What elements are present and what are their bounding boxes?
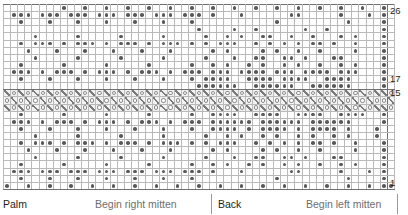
stitch-cell-decrease[interactable] (96, 97, 103, 104)
stitch-cell-empty[interactable] (18, 54, 25, 61)
stitch-cell-filled[interactable] (380, 76, 387, 83)
stitch-cell-decrease[interactable] (267, 97, 274, 104)
stitch-cell-empty[interactable] (238, 83, 245, 90)
stitch-cell-yarnover[interactable] (131, 97, 138, 104)
stitch-cell-decrease[interactable] (4, 90, 11, 97)
stitch-cell-empty[interactable] (302, 161, 309, 168)
stitch-cell-empty[interactable] (46, 68, 53, 75)
stitch-cell-empty[interactable] (366, 111, 373, 118)
stitch-cell-empty[interactable] (124, 76, 131, 83)
stitch-cell-empty[interactable] (302, 83, 309, 90)
stitch-cell-empty[interactable] (359, 61, 366, 68)
stitch-cell-empty[interactable] (117, 147, 124, 154)
stitch-cell-empty[interactable] (96, 111, 103, 118)
stitch-cell-empty[interactable] (323, 54, 330, 61)
stitch-cell-filled[interactable] (174, 182, 181, 189)
stitch-cell-empty[interactable] (89, 175, 96, 182)
stitch-cell-empty[interactable] (224, 26, 231, 33)
stitch-cell-empty[interactable] (167, 61, 174, 68)
stitch-cell-empty[interactable] (267, 26, 274, 33)
stitch-cell-empty[interactable] (359, 68, 366, 75)
stitch-cell-empty[interactable] (124, 47, 131, 54)
stitch-cell-empty[interactable] (373, 83, 380, 90)
stitch-cell-yarnover[interactable] (110, 104, 117, 111)
stitch-cell-empty[interactable] (259, 140, 266, 147)
stitch-cell-empty[interactable] (160, 161, 167, 168)
stitch-cell-empty[interactable] (345, 54, 352, 61)
stitch-cell-filled[interactable] (139, 118, 146, 125)
stitch-cell-yarnover[interactable] (82, 104, 89, 111)
stitch-cell-empty[interactable] (181, 40, 188, 47)
stitch-cell-yarnover[interactable] (259, 97, 266, 104)
stitch-cell-yarnover[interactable] (4, 97, 11, 104)
stitch-cell-empty[interactable] (117, 19, 124, 26)
stitch-cell-filled[interactable] (103, 19, 110, 26)
stitch-cell-filled[interactable] (153, 68, 160, 75)
stitch-cell-empty[interactable] (89, 68, 96, 75)
stitch-cell-filled[interactable] (309, 40, 316, 47)
stitch-cell-yarnover[interactable] (281, 104, 288, 111)
stitch-cell-empty[interactable] (195, 111, 202, 118)
stitch-cell-empty[interactable] (302, 61, 309, 68)
stitch-cell-empty[interactable] (160, 83, 167, 90)
stitch-cell-yarnover[interactable] (210, 90, 217, 97)
stitch-cell-empty[interactable] (4, 125, 11, 132)
stitch-cell-filled[interactable] (231, 111, 238, 118)
stitch-cell-empty[interactable] (67, 76, 74, 83)
stitch-cell-yarnover[interactable] (167, 104, 174, 111)
stitch-cell-filled[interactable] (18, 40, 25, 47)
stitch-cell-empty[interactable] (352, 19, 359, 26)
stitch-cell-empty[interactable] (153, 47, 160, 54)
stitch-cell-filled[interactable] (203, 33, 210, 40)
stitch-cell-filled[interactable] (103, 5, 110, 12)
stitch-cell-empty[interactable] (373, 19, 380, 26)
stitch-cell-empty[interactable] (224, 182, 231, 189)
stitch-cell-filled[interactable] (224, 76, 231, 83)
stitch-cell-decrease[interactable] (316, 104, 323, 111)
stitch-cell-empty[interactable] (25, 61, 32, 68)
stitch-cell-filled[interactable] (39, 12, 46, 19)
stitch-cell-empty[interactable] (224, 54, 231, 61)
stitch-cell-yarnover[interactable] (103, 97, 110, 104)
stitch-cell-empty[interactable] (338, 125, 345, 132)
stitch-cell-filled[interactable] (366, 12, 373, 19)
stitch-cell-filled[interactable] (146, 5, 153, 12)
stitch-cell-empty[interactable] (39, 154, 46, 161)
stitch-cell-empty[interactable] (252, 168, 259, 175)
stitch-cell-empty[interactable] (146, 26, 153, 33)
stitch-cell-empty[interactable] (167, 76, 174, 83)
stitch-cell-empty[interactable] (359, 154, 366, 161)
stitch-cell-decrease[interactable] (89, 90, 96, 97)
stitch-cell-decrease[interactable] (288, 104, 295, 111)
stitch-cell-empty[interactable] (32, 111, 39, 118)
stitch-cell-empty[interactable] (210, 140, 217, 147)
stitch-cell-empty[interactable] (181, 147, 188, 154)
stitch-cell-empty[interactable] (131, 111, 138, 118)
stitch-cell-empty[interactable] (345, 40, 352, 47)
stitch-cell-empty[interactable] (25, 54, 32, 61)
stitch-cell-empty[interactable] (323, 140, 330, 147)
stitch-cell-empty[interactable] (110, 161, 117, 168)
stitch-cell-filled[interactable] (18, 12, 25, 19)
stitch-cell-empty[interactable] (217, 47, 224, 54)
stitch-cell-empty[interactable] (373, 111, 380, 118)
stitch-cell-empty[interactable] (373, 33, 380, 40)
stitch-cell-filled[interactable] (274, 111, 281, 118)
stitch-cell-filled[interactable] (224, 125, 231, 132)
stitch-cell-filled[interactable] (18, 125, 25, 132)
stitch-cell-filled[interactable] (46, 40, 53, 47)
stitch-cell-filled[interactable] (309, 140, 316, 147)
stitch-cell-empty[interactable] (67, 111, 74, 118)
stitch-cell-empty[interactable] (231, 161, 238, 168)
stitch-cell-yarnover[interactable] (153, 90, 160, 97)
stitch-cell-decrease[interactable] (60, 104, 67, 111)
stitch-cell-filled[interactable] (188, 168, 195, 175)
stitch-cell-filled[interactable] (338, 154, 345, 161)
stitch-cell-filled[interactable] (53, 68, 60, 75)
stitch-cell-filled[interactable] (110, 182, 117, 189)
stitch-cell-empty[interactable] (373, 140, 380, 147)
stitch-cell-empty[interactable] (352, 83, 359, 90)
stitch-cell-empty[interactable] (195, 61, 202, 68)
stitch-cell-filled[interactable] (25, 168, 32, 175)
stitch-cell-empty[interactable] (366, 125, 373, 132)
